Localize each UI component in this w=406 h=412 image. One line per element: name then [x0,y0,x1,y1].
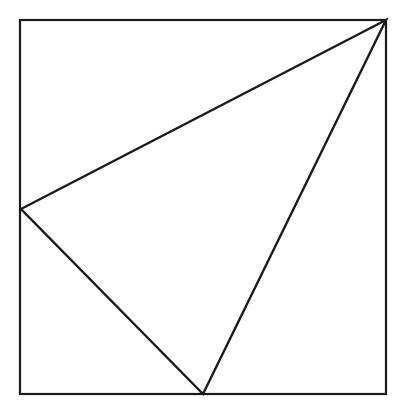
canvas-background [0,0,406,412]
figure-container [0,0,406,412]
geometry-diagram [0,0,406,412]
